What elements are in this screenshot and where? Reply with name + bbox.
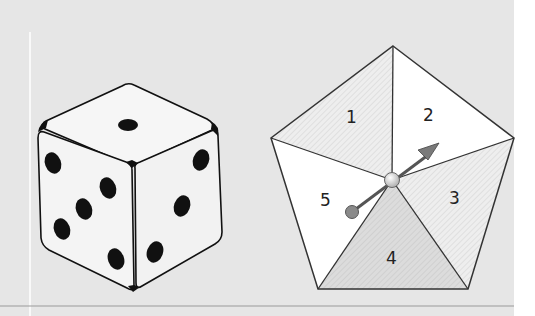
section-label-4: 4 [386,248,397,268]
pip-top [118,119,138,131]
spinner-pivot [385,173,400,188]
section-label-1: 1 [346,107,357,127]
arrow-tail-knob [346,206,359,219]
section-label-3: 3 [449,188,460,208]
figure-canvas: 1 2 3 4 5 [0,0,535,316]
section-label-2: 2 [423,105,434,125]
section-label-5: 5 [320,190,331,210]
